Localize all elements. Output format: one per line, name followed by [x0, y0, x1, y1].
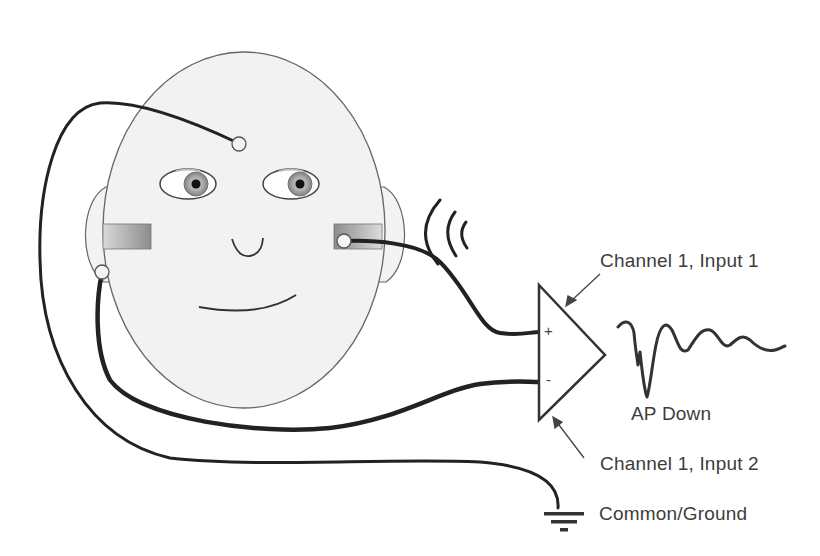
forehead-electrode	[232, 137, 246, 151]
amplifier-triangle	[539, 285, 605, 420]
earlobe-electrode	[95, 265, 109, 279]
left-eye	[160, 169, 216, 199]
minus-sign: -	[546, 371, 551, 388]
ear-canal-electrode	[337, 234, 351, 248]
right-eye	[263, 169, 319, 199]
arrow-input2	[553, 417, 584, 458]
plus-sign: +	[544, 322, 553, 339]
label-channel1-input2: Channel 1, Input 2	[600, 453, 759, 475]
left-ear-pad	[103, 224, 151, 249]
label-ap-down: AP Down	[631, 403, 711, 425]
label-common-ground: Common/Ground	[599, 503, 747, 525]
label-channel1-input1: Channel 1, Input 1	[600, 250, 759, 272]
sound-waves-icon	[425, 200, 467, 264]
ground-symbol-icon	[544, 512, 584, 532]
arrow-input1	[566, 274, 600, 306]
ap-waveform	[618, 322, 785, 397]
